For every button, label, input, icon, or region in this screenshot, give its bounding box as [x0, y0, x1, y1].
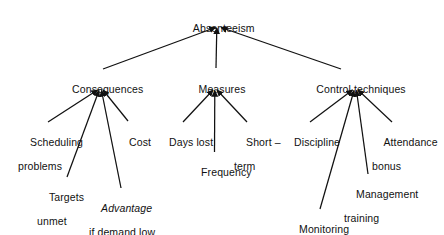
- node-management-training-line1: Management: [356, 188, 418, 200]
- node-scheduling-problems-line2: problems: [18, 160, 88, 172]
- node-control-techniques: Control techniques: [302, 71, 408, 107]
- node-cost: Cost: [117, 124, 151, 160]
- absenteeism-tree-diagram: Absenteeism Consequences Measures Contro…: [0, 0, 444, 235]
- node-targets-unmet-line2: unmet: [37, 215, 87, 227]
- node-management-training: Management training: [344, 176, 414, 235]
- node-targets-unmet-line1: Targets: [49, 191, 84, 203]
- node-short-term-line2: term: [234, 160, 276, 172]
- node-short-term-line1: Short –: [246, 136, 281, 148]
- node-discipline-label: Discipline: [294, 136, 340, 148]
- node-scheduling-problems-line1: Scheduling: [30, 136, 83, 148]
- node-monitoring-label: Monitoring: [299, 223, 349, 235]
- node-advantage-line1: Advantage: [101, 202, 152, 214]
- node-attendance-bonus-line2: bonus: [372, 160, 436, 172]
- node-measures-label: Measures: [199, 83, 246, 95]
- node-monitoring: Monitoring: [287, 211, 345, 235]
- node-attendance-bonus-line1: Attendance: [384, 136, 438, 148]
- node-measures: Measures: [186, 71, 246, 107]
- node-root: Absenteeism: [178, 10, 258, 46]
- node-short-term: Short – term: [234, 124, 276, 196]
- node-consequences-label: Consequences: [72, 83, 143, 95]
- node-advantage-line2: if demand low: [89, 226, 165, 235]
- node-advantage-if-demand-low: Advantage if demand low: [89, 190, 165, 235]
- node-consequences: Consequences: [60, 71, 142, 107]
- node-control-techniques-label: Control techniques: [316, 83, 405, 95]
- node-root-label: Absenteeism: [193, 22, 255, 34]
- node-management-training-line2: training: [344, 212, 414, 224]
- node-targets-unmet: Targets unmet: [37, 179, 87, 235]
- node-days-lost-label: Days lost: [169, 136, 213, 148]
- node-cost-label: Cost: [129, 136, 151, 148]
- node-discipline: Discipline: [282, 124, 334, 160]
